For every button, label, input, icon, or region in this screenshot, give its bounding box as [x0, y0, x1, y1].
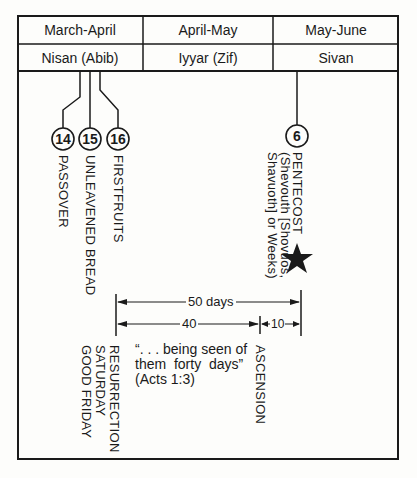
day-number-14: 14 — [52, 128, 74, 150]
span-label-40: 40 — [180, 317, 198, 331]
event-ascension: ASCENSION — [253, 345, 267, 424]
event-resurrection: RESURRECTION — [107, 345, 121, 453]
hebrew-month-iyyar: Iyyar (Zif) — [143, 44, 273, 71]
hebrew-month-nisan: Nisan (Abib) — [17, 44, 143, 71]
pentecost-note-line1: (Shevouth [Shovuos, — [278, 152, 292, 278]
quote-line-2: them forty days” — [135, 357, 247, 372]
day-number-16: 16 — [107, 128, 129, 150]
span-label-50-days: 50 days — [186, 295, 236, 309]
hebrew-month-sivan: Sivan — [273, 44, 399, 71]
quote-citation: (Acts 1:3) — [135, 372, 247, 387]
quote-line-1: “. . . being seen of — [135, 342, 247, 357]
span-label-10: 10 — [270, 317, 285, 331]
feast-label-passover: PASSOVER — [56, 155, 70, 228]
feast-label-unleavened-bread: UNLEAVENED BREAD — [83, 155, 97, 295]
month-cell-april-may: April-May — [143, 15, 273, 44]
acts-quote: “. . . being seen of them forty days” (A… — [135, 342, 247, 387]
event-good-friday: GOOD FRIDAY — [79, 345, 93, 438]
pentecost-note-line2: Shavuoth] or Weeks) — [265, 152, 279, 279]
month-cell-march-april: March-April — [17, 15, 143, 44]
day-number-15: 15 — [79, 128, 101, 150]
day-number-6: 6 — [286, 125, 308, 147]
month-cell-may-june: May-June — [273, 15, 399, 44]
event-saturday: SATURDAY — [93, 345, 107, 416]
diagram-lines — [0, 0, 417, 478]
feast-label-firstfruits: FIRSTFRUITS — [111, 155, 125, 243]
